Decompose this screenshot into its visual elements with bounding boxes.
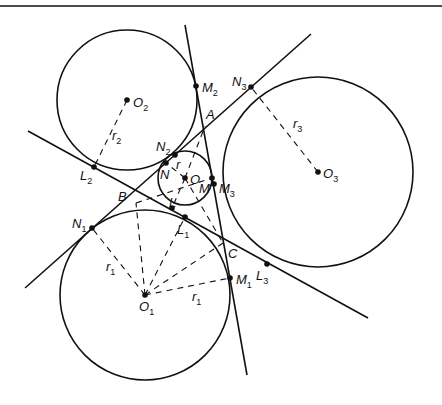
point-l3 (264, 261, 270, 267)
label-n1: N1 (72, 216, 86, 234)
bisector-o1-b (136, 203, 145, 295)
label-m1: M1 (236, 272, 252, 290)
label-r2: r2 (112, 128, 121, 146)
label-r3: r3 (293, 116, 302, 134)
label-m: M (199, 181, 210, 196)
label-n3: N3 (232, 74, 246, 92)
point-m1 (227, 275, 233, 281)
label-l1: L1 (177, 222, 189, 240)
label-m2: M2 (202, 80, 218, 98)
point-m (209, 175, 215, 181)
label-l: L (169, 195, 176, 210)
point-o3 (315, 169, 321, 175)
label-c: C (228, 246, 238, 261)
label-n2: N2 (156, 139, 170, 157)
point-o2 (124, 97, 130, 103)
point-l1 (182, 214, 188, 220)
label-r1-upper: r1 (106, 259, 115, 277)
label-l2: L2 (80, 168, 92, 186)
label-o3: O3 (323, 166, 338, 184)
point-o1 (142, 292, 148, 298)
radius-r2 (94, 100, 127, 167)
label-a: A (205, 107, 215, 122)
point-n (163, 160, 169, 166)
radius-r3 (251, 87, 318, 172)
label-n: N (160, 167, 170, 182)
radius-r1-n1 (92, 228, 145, 295)
label-l3: L3 (256, 268, 268, 286)
point-m3 (211, 181, 217, 187)
point-l2 (91, 164, 97, 170)
line-n1-n3 (25, 34, 311, 288)
label-r: r (176, 157, 181, 172)
point-n1 (89, 225, 95, 231)
point-n3 (248, 84, 254, 90)
point-o (182, 175, 188, 181)
label-b: B (118, 189, 127, 204)
point-m2 (193, 83, 199, 89)
label-o1: O1 (139, 299, 154, 317)
label-r1-lower: r1 (192, 289, 201, 307)
label-o2: O2 (133, 95, 148, 113)
segment-o1-c (145, 243, 223, 295)
geometry-diagram: O2 O3 O1 O M2 N3 A B C L2 N2 N r M M3 L … (0, 0, 442, 405)
